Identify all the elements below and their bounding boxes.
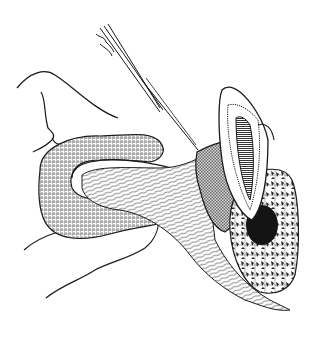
anatomical-illustration: [0, 0, 316, 337]
surgical-instrument: [96, 24, 198, 150]
illustration-canvas: [0, 0, 316, 337]
